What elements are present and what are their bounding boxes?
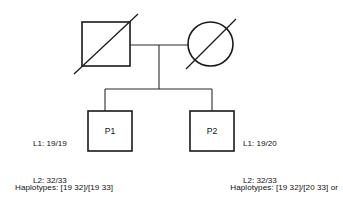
- child1-id-label: P1: [88, 126, 132, 136]
- child1-haplotype-line1: Haplotypes: [19 32]/[19 33]: [15, 182, 113, 194]
- child2-genotype-l1: L1: 19/20: [243, 138, 277, 150]
- pedigree-diagram: P1 P2 L1: 19/19 L2: 32/33 L1: 19/20 L2: …: [0, 0, 343, 204]
- child2-id-label: P2: [190, 126, 234, 136]
- child2-haplotype-line1: Haplotypes: [19 32]/[20 33] or: [158, 182, 338, 194]
- child1-haplotype-caption: Haplotypes: [19 32]/[19 33]: [15, 159, 113, 204]
- mother-deceased-slash-icon: [186, 19, 236, 69]
- father-deceased-slash-icon: [74, 14, 138, 74]
- child2-haplotype-caption: Haplotypes: [19 32]/[20 33] or [19 33]/[…: [158, 159, 338, 204]
- child1-genotype-l1: L1: 19/19: [33, 138, 67, 150]
